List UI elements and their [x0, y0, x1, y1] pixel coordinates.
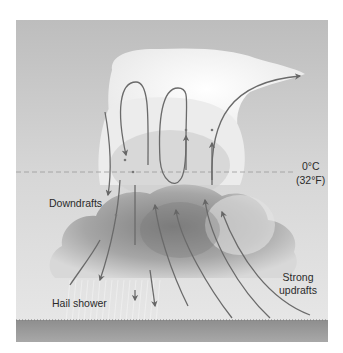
ground [16, 320, 328, 342]
hail-shower-label: Hail shower [52, 297, 107, 309]
strong-updrafts-label-line2: updrafts [274, 284, 322, 296]
freezing-level-celsius-label: 0°C [302, 160, 320, 172]
strong-updrafts-label-line1: Strong [278, 271, 318, 283]
downdrafts-label: Downdrafts [49, 197, 102, 209]
freezing-level-fahrenheit-label: (32°F) [296, 174, 325, 186]
